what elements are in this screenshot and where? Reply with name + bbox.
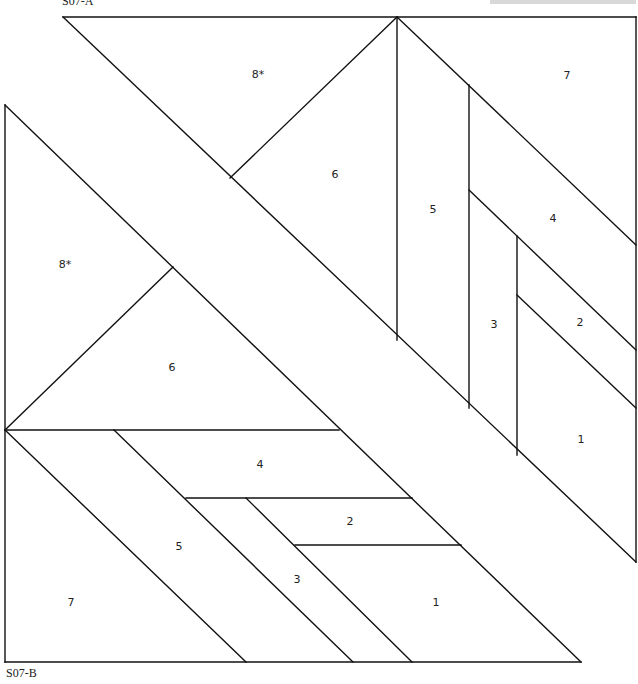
piece-label: 5 — [430, 203, 437, 216]
piece-label: 4 — [550, 212, 557, 225]
piece-label: 5 — [176, 540, 183, 553]
piece-label: 7 — [68, 596, 75, 609]
piece-label: 7 — [564, 69, 571, 82]
block-s07-a-labels: 8* 7 6 5 4 3 2 1 — [252, 68, 585, 446]
piece-label: 8* — [252, 68, 265, 81]
quilt-pattern-diagram: 8* 7 6 5 4 3 2 1 8* 6 4 2 5 3 7 1 — [0, 0, 638, 684]
piece-label: 1 — [578, 433, 585, 446]
piece-label: 3 — [491, 318, 498, 331]
piece-label: 3 — [294, 573, 301, 586]
block-label-s07-b: S07-B — [6, 666, 37, 681]
piece-label: 6 — [169, 361, 176, 374]
block-s07-b-labels: 8* 6 4 2 5 3 7 1 — [59, 258, 440, 609]
piece-label: 6 — [332, 168, 339, 181]
piece-label: 1 — [433, 596, 440, 609]
piece-label: 8* — [59, 258, 72, 271]
piece-label: 4 — [257, 458, 264, 471]
piece-label: 2 — [577, 316, 584, 329]
piece-label: 2 — [347, 515, 354, 528]
block-s07-a-seams — [230, 17, 636, 455]
